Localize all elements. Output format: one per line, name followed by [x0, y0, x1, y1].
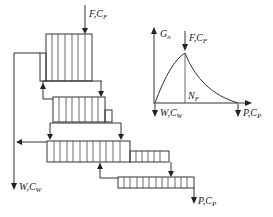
plot-waste-label: W,CW: [160, 107, 184, 120]
plot-product-label: P,CP: [242, 107, 262, 120]
waste-line: [11, 53, 40, 190]
rising-curve: [155, 53, 185, 103]
feed-arrow: [82, 5, 88, 34]
recycle-arrow: [16, 139, 47, 145]
profile-plot: Gn NF F,CF W,CW P,CP: [151, 27, 262, 120]
stage-4: [118, 177, 194, 188]
y-axis-label: Gn: [160, 28, 171, 41]
connector-3-4: [97, 162, 174, 178]
connector-1-2: [40, 81, 104, 99]
stage-3: [47, 141, 169, 162]
connector-2-3: [47, 123, 124, 140]
cascade-diagram: F,CF: [0, 0, 273, 217]
stage-2: [53, 97, 112, 122]
product-label: P,CP: [197, 195, 217, 208]
plot-feed-label: F,CF: [188, 32, 208, 45]
cascade-schematic: F,CF: [11, 5, 217, 208]
feed-label: F,CF: [88, 8, 108, 21]
waste-label: W,CW: [19, 181, 43, 194]
stage-1: [40, 34, 92, 81]
feed-position-label: NF: [187, 90, 200, 103]
product-arrow: [191, 188, 197, 204]
